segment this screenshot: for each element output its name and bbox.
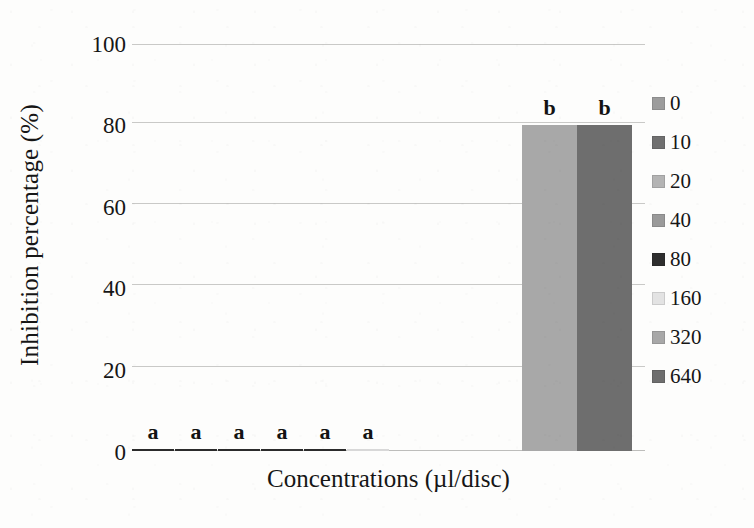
bar-annotation-0: a: [132, 421, 174, 443]
y-axis-title: Inhibition percentage (%): [6, 0, 54, 470]
legend-item-10: 10: [652, 123, 750, 162]
bar-640: [577, 125, 632, 451]
legend-item-160: 160: [652, 279, 750, 318]
legend-label-20: 20: [670, 171, 691, 192]
legend-item-0: 0: [652, 84, 750, 123]
bar-0: [132, 449, 174, 451]
legend-swatch-icon-640: [652, 370, 665, 383]
legend-label-640: 640: [670, 366, 702, 387]
bar-annotation-80: a: [304, 421, 346, 443]
bar-40: [261, 449, 303, 451]
legend-label-10: 10: [670, 132, 691, 153]
legend-label-80: 80: [670, 249, 691, 270]
y-tick-label-0: 0: [64, 441, 126, 464]
bar-annotation-640: b: [577, 97, 632, 119]
legend-item-80: 80: [652, 240, 750, 279]
bar-annotation-40: a: [261, 421, 303, 443]
chart-legend: 0 10 20 40 80 160 320 640: [652, 84, 750, 396]
legend-label-0: 0: [670, 93, 681, 114]
y-tick-label-20: 20: [64, 359, 126, 382]
bar-annotation-160: a: [347, 421, 389, 443]
legend-label-160: 160: [670, 288, 702, 309]
x-axis-title: Concentrations (µl/disc): [132, 465, 645, 493]
legend-item-320: 320: [652, 318, 750, 357]
legend-label-40: 40: [670, 210, 691, 231]
legend-swatch-icon-80: [652, 253, 665, 266]
legend-item-640: 640: [652, 357, 750, 396]
bar-20: [218, 449, 260, 451]
bar-10: [175, 449, 217, 451]
legend-swatch-icon-160: [652, 292, 665, 305]
y-tick-label-40: 40: [64, 277, 126, 300]
legend-item-20: 20: [652, 162, 750, 201]
bar-160: [347, 449, 389, 451]
legend-swatch-icon-10: [652, 136, 665, 149]
bar-320: [522, 125, 577, 451]
y-tick-label-100: 100: [64, 33, 126, 56]
bar-annotation-20: a: [218, 421, 260, 443]
legend-swatch-icon-320: [652, 331, 665, 344]
y-axis-tick-labels: 100 80 60 40 20 0: [56, 0, 126, 528]
plot-area: a a a a a a b b: [132, 44, 645, 451]
legend-swatch-icon-40: [652, 214, 665, 227]
y-tick-label-80: 80: [64, 114, 126, 137]
legend-swatch-icon-20: [652, 175, 665, 188]
legend-item-40: 40: [652, 201, 750, 240]
legend-label-320: 320: [670, 327, 702, 348]
bar-80: [304, 449, 346, 451]
bar-annotation-320: b: [522, 97, 577, 119]
bar-annotation-10: a: [175, 421, 217, 443]
y-tick-label-60: 60: [64, 196, 126, 219]
legend-swatch-icon-0: [652, 97, 665, 110]
chart-screenshot: Inhibition percentage (%) 100 80 60 40 2…: [0, 0, 754, 528]
bars-layer: a a a a a a b b: [132, 44, 645, 451]
y-axis-title-text: Inhibition percentage (%): [16, 104, 44, 366]
